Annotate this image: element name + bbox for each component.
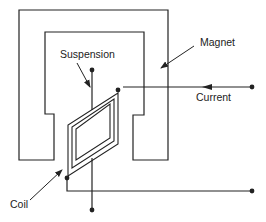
current-top-terminal <box>250 85 255 90</box>
coil <box>68 93 118 176</box>
suspension-leader-arrow <box>77 63 90 87</box>
coil-leader-arrow <box>30 170 62 200</box>
suspension-bottom-terminal <box>90 208 95 213</box>
suspension-top-terminal <box>90 68 95 73</box>
current-lead-bottom <box>67 178 252 191</box>
magnet-leader-arrow <box>161 46 194 68</box>
current-arrow-icon <box>202 84 212 90</box>
diagram-drawing <box>0 0 266 222</box>
current-label: Current <box>196 92 231 103</box>
suspension-label: Suspension <box>60 49 115 60</box>
magnet-outline <box>19 10 168 160</box>
diagram-canvas: Magnet Suspension Current Coil <box>0 0 266 222</box>
current-bottom-terminal <box>250 189 255 194</box>
magnet-label: Magnet <box>200 37 235 48</box>
coil-top-terminal <box>116 88 121 93</box>
coil-label: Coil <box>10 199 28 210</box>
